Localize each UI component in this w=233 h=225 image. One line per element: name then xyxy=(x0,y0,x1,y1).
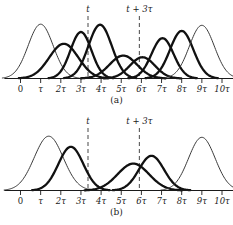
panel-b-caption: (b) xyxy=(0,207,233,217)
figure-container: tt + 3τ0τ2τ3τ4τ5τ6τ7τ8τ9τ10τ (a) tt + 3τ… xyxy=(0,0,233,225)
x-tick-label-2: 2τ xyxy=(55,84,66,94)
curve-gaussian-2 xyxy=(32,147,109,190)
panel-a-caption: (a) xyxy=(0,95,233,105)
x-tick-label-3: 3τ xyxy=(76,84,86,94)
marker-t-label: t xyxy=(86,116,90,126)
x-tick-label-2: 2τ xyxy=(55,196,66,206)
x-tick-label-3: 3τ xyxy=(76,196,86,206)
x-tick-label-5: 5τ xyxy=(116,84,126,94)
x-tick-label-4: 4τ xyxy=(95,196,106,206)
x-tick-label-6: 6τ xyxy=(136,84,146,94)
panel-b: tt + 3τ0τ2τ3τ4τ5τ6τ7τ8τ9τ10τ (b) xyxy=(0,112,233,225)
x-tick-label-9: 9τ xyxy=(197,84,207,94)
x-tick-label-4: 4τ xyxy=(95,84,106,94)
marker-t-plus-3tau-label: t + 3τ xyxy=(126,116,152,126)
x-tick-label-8: 8τ xyxy=(177,84,187,94)
x-tick-label-1: τ xyxy=(38,84,43,94)
x-tick-label-1: τ xyxy=(38,196,43,206)
x-tick-label-0: 0 xyxy=(18,196,23,206)
x-tick-label-6: 6τ xyxy=(136,196,146,206)
x-tick-label-9: 9τ xyxy=(197,196,207,206)
x-tick-label-8: 8τ xyxy=(177,196,187,206)
x-tick-label-10: 10τ xyxy=(214,84,230,94)
curve-gaussian-4 xyxy=(113,156,190,190)
x-tick-label-7: 7τ xyxy=(156,196,166,206)
x-tick-label-7: 7τ xyxy=(156,84,166,94)
x-tick-label-0: 0 xyxy=(18,84,23,94)
marker-t-label: t xyxy=(86,4,90,14)
panel-a: tt + 3τ0τ2τ3τ4τ5τ6τ7τ8τ9τ10τ (a) xyxy=(0,0,233,113)
marker-t-plus-3tau-label: t + 3τ xyxy=(126,4,152,14)
x-tick-label-10: 10τ xyxy=(214,196,230,206)
x-tick-label-5: 5τ xyxy=(116,196,126,206)
